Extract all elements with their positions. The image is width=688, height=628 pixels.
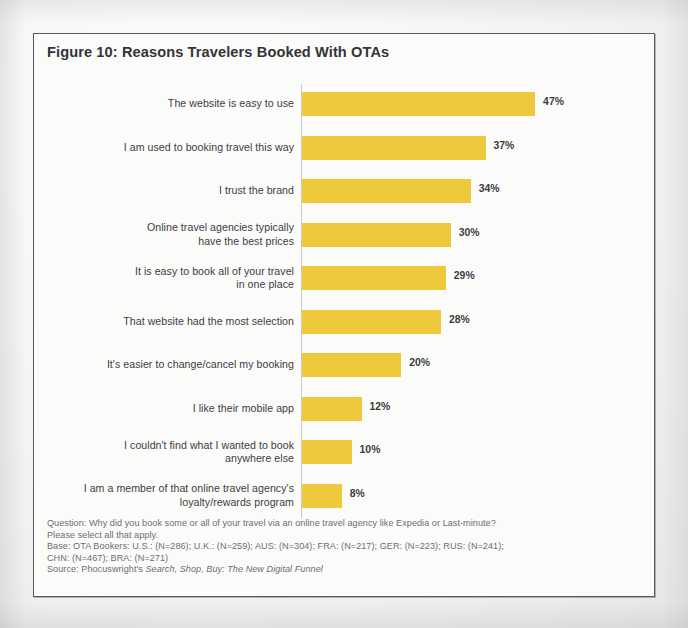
category-label-line: I am used to booking travel this way bbox=[124, 141, 294, 154]
bar-value-label: 8% bbox=[350, 488, 365, 499]
bar-category-label: I couldn't find what I wanted to bookany… bbox=[44, 430, 294, 474]
base-line-2: CHN: (N=467); BRA: (N=271) bbox=[47, 553, 643, 565]
bar-category-label: The website is easy to use bbox=[44, 82, 294, 126]
question-line-1: Question: Why did you book some or all o… bbox=[47, 518, 643, 530]
bar-category-label: That website had the most selection bbox=[44, 300, 294, 344]
bar bbox=[302, 310, 441, 334]
bar-value-label: 10% bbox=[360, 444, 381, 455]
bar-value-label: 12% bbox=[370, 401, 391, 412]
source-prefix: Source: Phocuswright's bbox=[47, 564, 145, 574]
bar-row: I trust the brand34% bbox=[34, 169, 654, 213]
category-label-line: I trust the brand bbox=[219, 184, 294, 197]
category-label-line: loyalty/rewards program bbox=[180, 496, 294, 509]
category-label-line: That website had the most selection bbox=[123, 315, 294, 328]
bar bbox=[302, 397, 362, 421]
bar bbox=[302, 484, 342, 508]
bar bbox=[302, 179, 471, 203]
bar-category-label: It's easier to change/cancel my booking bbox=[44, 343, 294, 387]
bar bbox=[302, 440, 352, 464]
bar-row: It is easy to book all of your travelin … bbox=[34, 256, 654, 300]
bar-value-label: 29% bbox=[454, 270, 475, 281]
category-label-line: It is easy to book all of your travel bbox=[135, 265, 294, 278]
bar-category-label: Online travel agencies typicallyhave the… bbox=[44, 213, 294, 257]
bar-row: I like their mobile app12% bbox=[34, 387, 654, 431]
bar-value-label: 30% bbox=[459, 227, 480, 238]
category-label-line: I couldn't find what I wanted to book bbox=[124, 439, 294, 452]
bar bbox=[302, 223, 451, 247]
question-line-2: Please select all that apply. bbox=[47, 530, 643, 542]
category-label-line: I am a member of that online travel agen… bbox=[84, 482, 294, 495]
bar bbox=[302, 136, 486, 160]
figure-title: Figure 10: Reasons Travelers Booked With… bbox=[47, 44, 389, 60]
bar-row: I am used to booking travel this way37% bbox=[34, 126, 654, 170]
bar-row: The website is easy to use47% bbox=[34, 82, 654, 126]
category-label-line: anywhere else bbox=[225, 452, 294, 465]
bar-value-label: 47% bbox=[543, 96, 564, 107]
category-label-line: I like their mobile app bbox=[193, 402, 294, 415]
category-label-line: Online travel agencies typically bbox=[147, 221, 294, 234]
source-line: Source: Phocuswright's Search, Shop, Buy… bbox=[47, 564, 643, 576]
bar-value-label: 37% bbox=[494, 140, 515, 151]
bar-category-label: I trust the brand bbox=[44, 169, 294, 213]
bar-category-label: I am a member of that online travel agen… bbox=[44, 474, 294, 518]
category-label-line: The website is easy to use bbox=[168, 97, 294, 110]
bar-chart-plot-area: The website is easy to use47%I am used t… bbox=[34, 78, 654, 518]
bar-value-label: 34% bbox=[479, 183, 500, 194]
bar-category-label: I like their mobile app bbox=[44, 387, 294, 431]
bar-row: I couldn't find what I wanted to bookany… bbox=[34, 430, 654, 474]
category-label-line: have the best prices bbox=[198, 235, 294, 248]
base-line-1: Base: OTA Bookers: U.S.: (N=286); U.K.: … bbox=[47, 541, 643, 553]
category-label-line: in one place bbox=[236, 278, 294, 291]
bar-value-label: 28% bbox=[449, 314, 470, 325]
bar-category-label: I am used to booking travel this way bbox=[44, 126, 294, 170]
source-title: Search, Shop, Buy: The New Digital Funne… bbox=[145, 564, 322, 574]
bar-category-label: It is easy to book all of your travelin … bbox=[44, 256, 294, 300]
figure-container: Figure 10: Reasons Travelers Booked With… bbox=[33, 33, 655, 597]
bar-row: Online travel agencies typicallyhave the… bbox=[34, 213, 654, 257]
bar bbox=[302, 92, 535, 116]
bar-value-label: 20% bbox=[409, 357, 430, 368]
bar-row: It's easier to change/cancel my booking2… bbox=[34, 343, 654, 387]
bar-row: I am a member of that online travel agen… bbox=[34, 474, 654, 518]
bar-row: That website had the most selection28% bbox=[34, 300, 654, 344]
bar bbox=[302, 266, 446, 290]
category-label-line: It's easier to change/cancel my booking bbox=[107, 358, 294, 371]
figure-footnotes: Question: Why did you book some or all o… bbox=[47, 518, 643, 576]
bar bbox=[302, 353, 401, 377]
